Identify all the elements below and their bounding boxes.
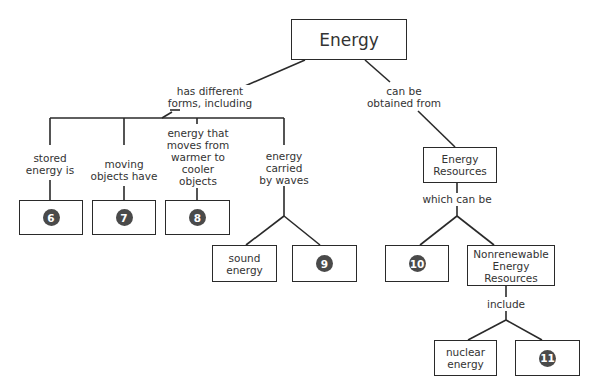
- node-blank-6: 6: [19, 200, 83, 235]
- line-fork-9: [284, 216, 320, 245]
- node-sound-energy-label: sound energy: [226, 252, 263, 276]
- number-badge-7: 7: [116, 209, 133, 226]
- link-label-obtained: can be obtained from: [364, 85, 444, 109]
- line-obtained-resources: [418, 111, 455, 147]
- node-energy: Energy: [291, 19, 407, 60]
- node-energy-resources: Energy Resources: [423, 147, 497, 183]
- link-label-heat: energy that moves from warmer to cooler …: [160, 127, 236, 187]
- number-badge-11: 11: [539, 350, 556, 367]
- node-energy-label: Energy: [319, 34, 379, 46]
- link-label-moving: moving objects have: [86, 158, 162, 182]
- node-nonrenewable: Nonrenewable Energy Resources: [467, 245, 555, 286]
- number-badge-10: 10: [409, 255, 426, 272]
- link-label-include: include: [476, 298, 536, 310]
- number-badge-8: 8: [189, 209, 206, 226]
- line-root-obtained: [365, 60, 390, 82]
- line-root-forms: [245, 60, 305, 86]
- line-fork-nonrenewable: [457, 216, 494, 245]
- link-label-waves: energy carried by waves: [250, 150, 318, 186]
- node-nuclear-energy: nuclear energy: [434, 340, 497, 376]
- node-blank-8: 8: [165, 200, 230, 235]
- node-blank-7: 7: [92, 200, 156, 235]
- link-label-stored: stored energy is: [15, 152, 85, 176]
- node-blank-11: 11: [515, 340, 580, 376]
- node-nonrenewable-label: Nonrenewable Energy Resources: [473, 248, 549, 284]
- line-fork-10: [420, 216, 457, 245]
- line-forms-drop: [162, 112, 172, 118]
- node-nuclear-energy-label: nuclear energy: [446, 346, 485, 370]
- link-label-which: which can be: [417, 193, 497, 205]
- node-energy-resources-label: Energy Resources: [433, 153, 487, 177]
- node-blank-9: 9: [292, 245, 357, 282]
- number-badge-6: 6: [43, 209, 60, 226]
- link-label-forms: has different forms, including: [150, 85, 270, 109]
- line-fork-11: [506, 320, 542, 340]
- node-sound-energy: sound energy: [212, 245, 277, 282]
- number-badge-9: 9: [316, 255, 333, 272]
- line-fork-sound: [246, 216, 284, 245]
- node-blank-10: 10: [385, 245, 449, 282]
- line-fork-nuclear: [468, 320, 506, 340]
